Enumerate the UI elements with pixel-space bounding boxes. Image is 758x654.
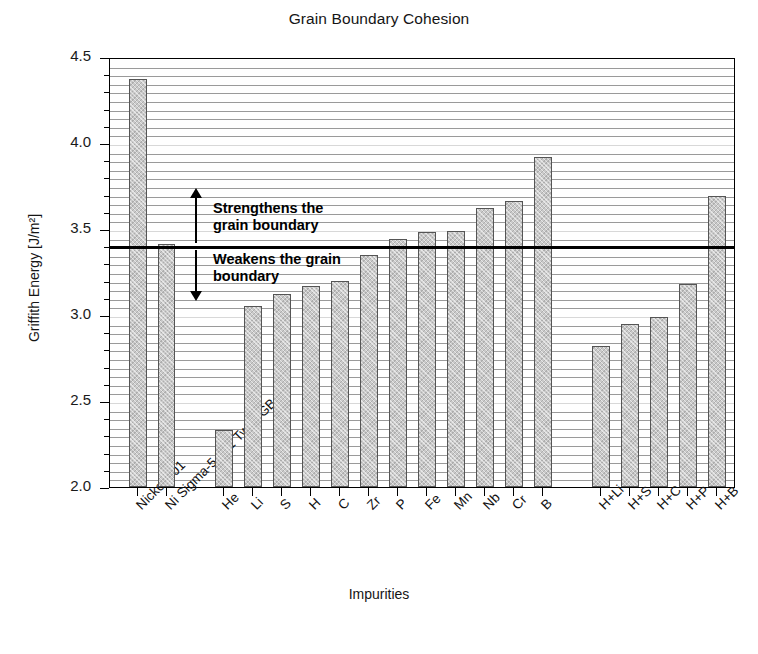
- bar-nb[interactable]: [476, 208, 494, 487]
- y-tick-minor: [104, 385, 109, 386]
- bar-h-b[interactable]: [708, 196, 726, 487]
- bar-h-p[interactable]: [679, 284, 697, 487]
- annotation-strengthens-line2: grain boundary: [213, 217, 323, 234]
- y-tick-minor: [104, 127, 109, 128]
- x-tick: [658, 488, 659, 496]
- x-tick-label: P: [393, 496, 410, 513]
- minor-gridline: [110, 68, 734, 69]
- x-axis-label: Impurities: [0, 586, 758, 602]
- minor-gridline: [110, 154, 734, 155]
- bar-b[interactable]: [534, 157, 552, 487]
- y-tick-minor: [104, 333, 109, 334]
- minor-gridline: [110, 119, 734, 120]
- x-tick-label: H: [306, 495, 324, 513]
- annotation-weakens: Weakens the grain boundary: [213, 251, 341, 285]
- bar-c[interactable]: [331, 281, 349, 487]
- annotation-strengthens-line1: Strengthens the: [213, 200, 323, 217]
- y-tick-minor: [104, 196, 109, 197]
- y-tick-minor: [104, 247, 109, 248]
- minor-gridline: [110, 179, 734, 180]
- bar-li[interactable]: [244, 306, 262, 487]
- bar-cr[interactable]: [505, 201, 523, 487]
- bar-mn[interactable]: [447, 231, 465, 487]
- major-gridline: [110, 145, 734, 146]
- x-tick: [716, 488, 717, 496]
- bar-he[interactable]: [215, 430, 233, 487]
- arrow-down-shaft-icon: [195, 250, 197, 292]
- bar-ni-sigma-5-001-twist-gb[interactable]: [158, 244, 176, 487]
- x-tick-label: Li: [248, 495, 266, 513]
- minor-gridline: [110, 136, 734, 137]
- minor-gridline: [110, 128, 734, 129]
- y-tick-label: 4.5: [31, 47, 91, 64]
- y-tick-minor: [104, 161, 109, 162]
- bar-fe[interactable]: [418, 232, 436, 487]
- y-tick-minor: [104, 368, 109, 369]
- minor-gridline: [110, 111, 734, 112]
- minor-gridline: [110, 222, 734, 223]
- y-tick-minor: [104, 110, 109, 111]
- minor-gridline: [110, 76, 734, 77]
- y-tick-label: 4.0: [31, 133, 91, 150]
- y-axis-label: Griffith Energy [J/m²]: [26, 178, 42, 378]
- bar-h-c[interactable]: [650, 317, 668, 487]
- minor-gridline: [110, 102, 734, 103]
- plot-area: [109, 58, 735, 488]
- y-tick: [100, 402, 109, 403]
- x-tick-label: S: [277, 496, 294, 513]
- y-tick-minor: [104, 471, 109, 472]
- x-tick-label: Zr: [364, 493, 384, 513]
- y-tick: [100, 144, 109, 145]
- minor-gridline: [110, 162, 734, 163]
- x-tick: [426, 488, 427, 496]
- y-tick-minor: [104, 213, 109, 214]
- bar-nickel-001[interactable]: [129, 79, 147, 487]
- y-tick: [100, 230, 109, 231]
- threshold-line: [110, 246, 734, 249]
- x-tick: [687, 488, 688, 496]
- x-tick: [513, 488, 514, 496]
- y-tick: [100, 58, 109, 59]
- chart-title: Grain Boundary Cohesion: [0, 10, 758, 28]
- y-tick-minor: [104, 264, 109, 265]
- y-tick-minor: [104, 419, 109, 420]
- minor-gridline: [110, 197, 734, 198]
- arrow-up-shaft-icon: [195, 197, 197, 243]
- y-tick-minor: [104, 454, 109, 455]
- y-tick-minor: [104, 75, 109, 76]
- minor-gridline: [110, 85, 734, 86]
- x-tick-label: B: [538, 496, 555, 513]
- minor-gridline: [110, 214, 734, 215]
- bar-s[interactable]: [273, 294, 291, 487]
- minor-gridline: [110, 93, 734, 94]
- y-tick-minor: [104, 299, 109, 300]
- bar-h-s[interactable]: [621, 324, 639, 487]
- chart-container: Grain Boundary Cohesion Griffith Energy …: [0, 0, 758, 654]
- annotation-strengthens: Strengthens the grain boundary: [213, 200, 323, 234]
- x-tick: [397, 488, 398, 496]
- bar-h[interactable]: [302, 286, 320, 487]
- bar-h-li[interactable]: [592, 346, 610, 487]
- y-tick: [100, 488, 109, 489]
- y-tick-label: 2.5: [31, 391, 91, 408]
- x-tick: [629, 488, 630, 496]
- x-tick: [484, 488, 485, 496]
- annotation-weakens-line1: Weakens the grain: [213, 251, 341, 268]
- y-tick-minor: [104, 282, 109, 283]
- y-tick-minor: [104, 436, 109, 437]
- y-tick-label: 3.0: [31, 305, 91, 322]
- x-tick-label: C: [335, 495, 353, 513]
- x-tick: [455, 488, 456, 496]
- y-tick-minor: [104, 350, 109, 351]
- bar-p[interactable]: [389, 239, 407, 487]
- arrow-down-head-icon: [190, 291, 202, 301]
- annotation-weakens-line2: boundary: [213, 268, 341, 285]
- minor-gridline: [110, 205, 734, 206]
- x-tick: [600, 488, 601, 496]
- x-tick: [137, 488, 138, 496]
- y-tick-minor: [104, 178, 109, 179]
- y-tick-label: 3.5: [31, 219, 91, 236]
- minor-gridline: [110, 188, 734, 189]
- y-tick-label: 2.0: [31, 477, 91, 494]
- bar-zr[interactable]: [360, 255, 378, 487]
